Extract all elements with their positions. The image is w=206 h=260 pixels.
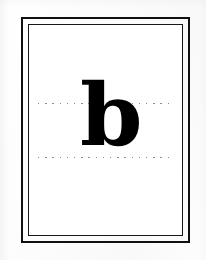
writing-guide-area: b bbox=[28, 24, 183, 236]
glyph-slot: b bbox=[28, 24, 183, 236]
flashcard-root: b bbox=[0, 0, 206, 260]
letter-glyph: b bbox=[80, 73, 143, 159]
